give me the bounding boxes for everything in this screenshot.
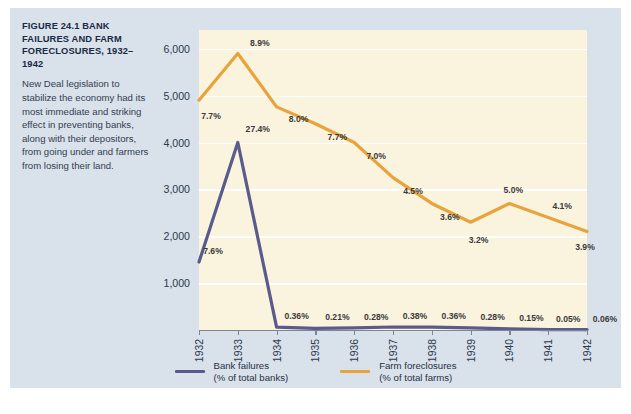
data-point-label: 8.9% [250,38,270,48]
x-axis-tick-label: 1939 [466,339,477,362]
data-point-label: 0.28% [480,312,504,322]
chart-series-svg [199,30,587,330]
data-point-label: 0.38% [403,311,427,321]
data-point-label: 7.6% [203,246,223,256]
y-axis-tick-label: 4,000 [163,137,190,149]
x-axis-tick [548,330,549,335]
figure-title: FIGURE 24.1 BANK FAILURES AND FARM FOREC… [22,20,150,70]
y-axis-tick-label: 1,000 [163,277,190,289]
y-axis-tick-label: 5,000 [163,90,190,102]
data-point-label: 3.6% [440,212,460,222]
data-point-label: 0.15% [519,313,543,323]
x-axis-tick [238,330,239,335]
legend-label-bank-failures: Bank failures(% of total banks) [214,360,289,383]
x-axis-tick-label: 1935 [310,339,321,362]
data-point-label: 4.1% [552,201,572,211]
data-point-label: 7.0% [366,151,386,161]
legend-entry-farm-foreclosures: Farm foreclosures(% of total farms) [340,360,456,383]
figure-caption-text: New Deal legislation to stabilize the ec… [22,77,150,172]
figure-block: FIGURE 24.1 BANK FAILURES AND FARM FOREC… [10,8,621,388]
x-axis-tick-label: 1932 [194,339,205,362]
y-axis-tick-label: 2,000 [163,230,190,242]
y-axis-tick-label: 6,000 [163,43,190,55]
data-point-label: 0.36% [442,311,466,321]
legend-label-line2: (% of total farms) [379,372,456,384]
data-point-label: 0.05% [556,314,580,324]
x-axis-tick-label: 1936 [349,339,360,362]
x-axis-tick [354,330,355,335]
x-axis-tick-label: 1942 [582,339,593,362]
data-point-label: 3.9% [575,242,595,252]
x-axis-tick-label: 1937 [388,339,399,362]
x-axis-tick [509,330,510,335]
x-axis-tick [315,330,316,335]
x-axis-tick-label: 1934 [272,339,283,362]
data-point-label: 3.2% [469,235,489,245]
series-line [199,53,587,231]
legend-swatch-bank-failures [175,370,205,374]
legend-label-line1: Bank failures [214,360,289,372]
data-point-label: 27.4% [246,124,270,134]
figure-caption-column: FIGURE 24.1 BANK FAILURES AND FARM FOREC… [22,20,150,173]
legend-label-farm-foreclosures: Farm foreclosures(% of total farms) [379,360,456,383]
data-point-label: 7.7% [328,132,348,142]
x-axis-tick [199,330,200,335]
data-point-label: 0.21% [325,312,349,322]
x-axis-tick [432,330,433,335]
data-point-label: 0.28% [364,312,388,322]
x-axis-tick [471,330,472,335]
y-axis-tick-label: 3,000 [163,183,190,195]
legend-swatch-farm-foreclosures [340,370,370,374]
data-point-label: 4.5% [403,186,423,196]
data-point-label: 5.0% [504,185,524,195]
legend-entry-bank-failures: Bank failures(% of total banks) [175,360,289,383]
x-axis-tick [277,330,278,335]
x-axis-tick-label: 1933 [233,339,244,362]
data-point-label: 8.0% [289,114,309,124]
legend-label-line1: Farm foreclosures [379,360,456,372]
chart-legend: Bank failures(% of total banks)Farm fore… [10,360,621,383]
data-point-label: 0.36% [284,311,308,321]
series-line [199,143,587,330]
data-point-label: 7.7% [201,111,221,121]
chart-plot-area: 1,0002,0003,0004,0005,0006,000 7.6%27.4%… [199,30,587,330]
x-axis-tick-label: 1938 [427,339,438,362]
x-axis-tick-label: 1941 [543,339,554,362]
x-axis-tick [587,330,588,335]
x-axis-tick-label: 1940 [504,339,515,362]
x-axis-tick [393,330,394,335]
legend-label-line2: (% of total banks) [214,372,289,384]
data-point-label: 0.06% [593,314,617,324]
